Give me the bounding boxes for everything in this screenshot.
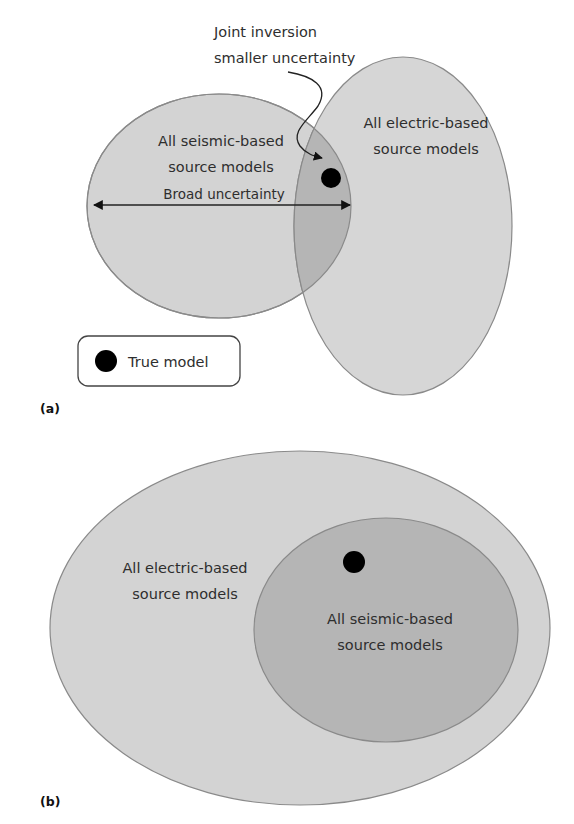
- true-model-dot-b: [343, 551, 365, 573]
- seismic-region-label-b-line2: source models: [337, 637, 442, 653]
- broad-uncertainty-label: Broad uncertainty: [163, 186, 284, 202]
- seismic-region-label-b-line1: All seismic-based: [327, 611, 453, 627]
- panel-b-label: (b): [40, 794, 60, 809]
- panel-b: All electric-based source models All sei…: [40, 451, 550, 809]
- electric-region-label-line1: All electric-based: [363, 115, 488, 131]
- panel-a: All seismic-based source models All elec…: [40, 24, 512, 416]
- diagram-canvas: All seismic-based source models All elec…: [0, 0, 574, 824]
- legend-label: True model: [127, 354, 209, 370]
- electric-region-label-line2: source models: [373, 141, 478, 157]
- electric-region-label-b-line1: All electric-based: [122, 560, 247, 576]
- true-model-legend-icon: [95, 350, 117, 372]
- joint-inversion-label-line2: smaller uncertainty: [214, 50, 356, 66]
- seismic-region-ellipse-b: [254, 518, 518, 742]
- legend: True model: [78, 336, 240, 386]
- electric-region-label-b-line2: source models: [132, 586, 237, 602]
- panel-a-label: (a): [40, 401, 60, 416]
- joint-inversion-label-line1: Joint inversion: [213, 24, 317, 40]
- seismic-region-label-line2: source models: [168, 159, 273, 175]
- seismic-region-label-line1: All seismic-based: [158, 133, 284, 149]
- true-model-dot: [321, 168, 341, 188]
